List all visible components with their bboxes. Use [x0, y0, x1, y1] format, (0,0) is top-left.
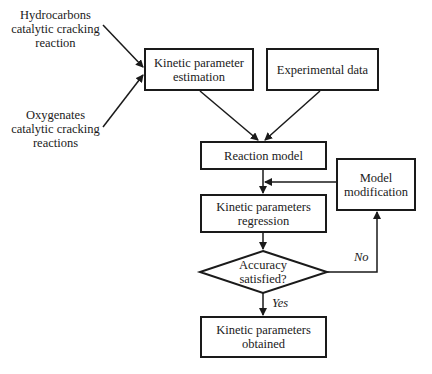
node-kinetic-parameters-obtained: Kinetic parameters obtained: [200, 316, 327, 358]
node-model-modification: Model modification: [336, 158, 416, 211]
input-hydrocarbons: Hydrocarbons catalytic cracking reaction: [8, 8, 103, 50]
edge-label-yes: Yes: [272, 296, 288, 311]
arrow-no-to-modification: [327, 212, 377, 272]
arrow-oxygenates-to-estimation: [103, 75, 143, 127]
arrow-experimental-to-reaction-model: [265, 91, 320, 140]
node-reaction-model: Reaction model: [200, 141, 327, 170]
node-experimental-data: Experimental data: [266, 48, 379, 91]
node-kinetic-parameters-regression: Kinetic parameters regression: [200, 194, 327, 233]
arrow-estimation-to-reaction-model: [200, 91, 258, 140]
edge-label-no: No: [354, 250, 369, 265]
arrow-hydrocarbons-to-estimation: [103, 25, 143, 67]
input-oxygenates: Oxygenates catalytic cracking reactions: [8, 108, 103, 150]
node-kinetic-parameter-estimation: Kinetic parameter estimation: [144, 48, 254, 91]
decision-accuracy-label: Accuracy satisfied?: [232, 258, 294, 286]
